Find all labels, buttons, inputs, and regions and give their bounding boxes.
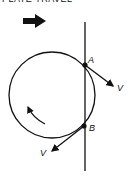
label-velocity-a: V: [117, 83, 124, 93]
label-velocity-b: V: [40, 148, 47, 158]
velocity-a-arrow-icon: [85, 65, 113, 86]
label-point-b: B: [89, 123, 95, 133]
roller-plate-diagram: A B V V: [0, 0, 132, 176]
travel-direction-arrow-icon: [23, 14, 46, 28]
velocity-b-arrow-icon: [52, 126, 84, 151]
label-point-a: A: [87, 55, 94, 65]
rotation-arrow-icon: [28, 107, 45, 124]
